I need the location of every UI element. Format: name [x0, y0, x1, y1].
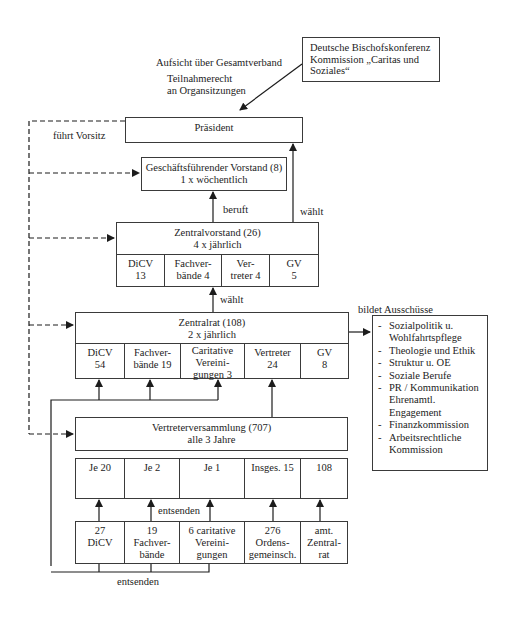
central-board-box: Zentralvorstand (26) 4 x jährlich DiCV13…: [116, 222, 319, 287]
central-council-cell: Vertreter24: [244, 344, 300, 378]
elects-board-label: wählt: [220, 294, 243, 306]
central-council-header: Zentralrat (108) 2 x jährlich: [76, 313, 348, 344]
delegate-assembly-box: Vertreterversammlung (707) alle 3 Jahre: [75, 417, 348, 451]
delegate-assembly-title: Vertreterversammlung (707): [76, 422, 347, 434]
delegate-label-lower: entsenden: [117, 576, 159, 588]
executive-board-frequency: 1 x wöchentlich: [142, 174, 286, 186]
committee-item: Struktur u. OE: [373, 357, 487, 369]
committee-item: Finanzkommission: [373, 419, 487, 431]
chairs-label: führt Vorsitz: [53, 130, 105, 142]
member-organization-cell: amt.Zentral-rat: [300, 522, 347, 563]
central-council-title: Zentralrat (108): [76, 317, 348, 329]
central-council-cells: DiCV54 Fachver-bände 19 CaritativeVerein…: [76, 344, 348, 378]
central-council-frequency: 2 x jährlich: [76, 329, 348, 341]
delegate-quota-cell: 108: [300, 459, 347, 498]
member-organizations-row: 27DiCV 19Fachver-bände 6 caritativeVerei…: [75, 521, 348, 564]
participation-label-line1: Teilnahmerecht: [167, 73, 232, 85]
delegate-quota-cell: Insges. 15: [244, 459, 300, 498]
member-organization-cell: 6 caritativeVereini-gungen: [179, 522, 244, 563]
central-council-box: Zentralrat (108) 2 x jährlich DiCV54 Fac…: [75, 312, 349, 379]
central-board-header: Zentralvorstand (26) 4 x jährlich: [117, 223, 318, 255]
delegate-quota-cell: Je 1: [179, 459, 244, 498]
central-board-frequency: 4 x jährlich: [117, 239, 318, 251]
member-organization-cell: 27DiCV: [76, 522, 124, 563]
appoints-label: beruft: [223, 204, 248, 216]
central-board-cells: DiCV13 Fachver-bände 4 Ver-treter 4 GV5: [117, 255, 318, 286]
president-box: Präsident: [125, 117, 303, 143]
committees-list: Sozialpolitik u. Wohlfahrtspflege Theolo…: [373, 320, 487, 456]
central-board-title: Zentralvorstand (26): [117, 227, 318, 239]
central-council-cell: GV8: [300, 344, 348, 378]
executive-board-title: Geschäftsführender Vorstand (8): [142, 162, 286, 174]
central-board-cell: GV5: [269, 255, 318, 286]
delegate-assembly-frequency: alle 3 Jahre: [76, 434, 347, 446]
central-council-cell: DiCV54: [76, 344, 124, 378]
delegate-quota-cell: Je 20: [76, 459, 124, 498]
member-organization-cell: 19Fachver-bände: [124, 522, 179, 563]
committee-item: PR / Kommunikation Ehrenamtl. Engagement: [373, 382, 487, 419]
committee-item: Sozialpolitik u. Wohlfahrtspflege: [373, 320, 487, 345]
delegate-quota-cell: Je 2: [124, 459, 179, 498]
bishops-conference-line1: Deutsche Bischofskonferenz: [310, 42, 439, 54]
bishops-conference-line3: Soziales“: [310, 65, 439, 77]
delegate-label-upper: entsenden: [158, 505, 200, 517]
supervision-label: Aufsicht über Gesamtverband: [156, 57, 282, 69]
committees-box: Sozialpolitik u. Wohlfahrtspflege Theolo…: [372, 315, 488, 471]
member-organization-cell: 276Ordens-gemeinsch.: [244, 522, 300, 563]
bishops-conference-line2: Kommission „Caritas und: [310, 54, 439, 66]
participation-label-line2: an Organsitzungen: [167, 85, 246, 97]
central-board-cell: DiCV13: [117, 255, 164, 286]
central-council-cell: CaritativeVereini-gungen 3: [180, 344, 244, 378]
elects-president-label: wählt: [300, 206, 323, 218]
committee-item: Arbeitsrechtliche Kommission: [373, 432, 487, 457]
committee-item: Soziale Berufe: [373, 370, 487, 382]
committee-item: Theologie und Ethik: [373, 345, 487, 357]
central-board-cell: Fachver-bände 4: [164, 255, 221, 286]
delegate-quota-row: Je 20 Je 2 Je 1 Insges. 15 108: [75, 458, 348, 499]
central-board-cell: Ver-treter 4: [221, 255, 269, 286]
central-council-cell: Fachver-bände 19: [124, 344, 180, 378]
bishops-conference-box: Deutsche Bischofskonferenz Kommission „C…: [302, 37, 440, 82]
executive-board-box: Geschäftsführender Vorstand (8) 1 x wöch…: [141, 157, 287, 191]
president-title: Präsident: [194, 122, 233, 133]
